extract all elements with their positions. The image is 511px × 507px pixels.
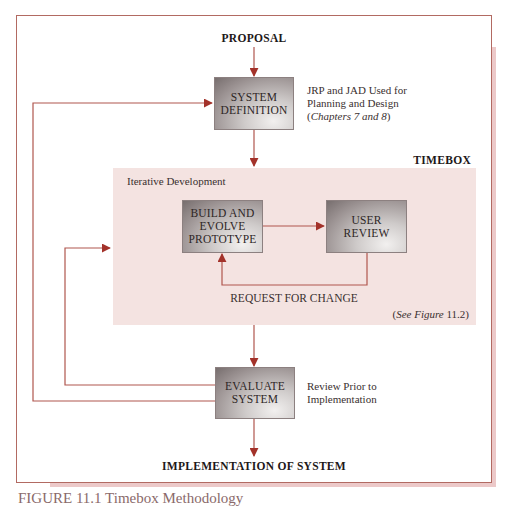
- timebox-subtitle: Iterative Development: [127, 175, 226, 188]
- ref-paren-close: ): [465, 308, 469, 320]
- implementation-label: IMPLEMENTATION OF SYSTEM: [134, 460, 374, 472]
- evaluate-system-box[interactable]: EVALUATE SYSTEM: [215, 367, 295, 419]
- proposal-label: PROPOSAL: [204, 32, 304, 44]
- ref-number: 11.2: [444, 308, 466, 320]
- chapters-reference: Chapters 7 and 8: [311, 110, 387, 122]
- build-prototype-line-2: EVOLVE: [188, 220, 256, 233]
- system-definition-line-2: DEFINITION: [220, 104, 287, 117]
- system-definition-line-1: SYSTEM: [220, 91, 287, 104]
- figure-caption: FIGURE 11.1 Timebox Methodology: [18, 490, 243, 507]
- build-prototype-box[interactable]: BUILD AND EVOLVE PROTOTYPE: [182, 200, 263, 253]
- note-line-3: (Chapters 7 and 8): [307, 110, 457, 123]
- note-line-1: JRP and JAD Used for: [307, 84, 457, 97]
- system-definition-note: JRP and JAD Used for Planning and Design…: [307, 84, 457, 123]
- figure-reference: (See Figure 11.2): [380, 308, 469, 321]
- build-prototype-line-3: PROTOTYPE: [188, 233, 256, 246]
- paren-close: ): [387, 110, 391, 122]
- system-definition-box[interactable]: SYSTEM DEFINITION: [214, 77, 294, 130]
- user-review-line-1: USER: [344, 214, 390, 227]
- build-prototype-line-1: BUILD AND: [188, 207, 256, 220]
- evaluate-system-line-1: EVALUATE: [225, 380, 285, 393]
- evaluate-note-line-1: Review Prior to: [307, 380, 447, 393]
- evaluate-system-line-2: SYSTEM: [225, 393, 285, 406]
- note-line-2: Planning and Design: [307, 97, 457, 110]
- evaluate-system-note: Review Prior to Implementation: [307, 380, 447, 406]
- request-for-change-label: REQUEST FOR CHANGE: [194, 292, 394, 305]
- user-review-box[interactable]: USER REVIEW: [326, 200, 407, 253]
- user-review-line-2: REVIEW: [344, 227, 390, 240]
- evaluate-note-line-2: Implementation: [307, 393, 447, 406]
- timebox-title: TIMEBOX: [380, 154, 471, 166]
- ref-see-figure: See Figure: [396, 308, 444, 320]
